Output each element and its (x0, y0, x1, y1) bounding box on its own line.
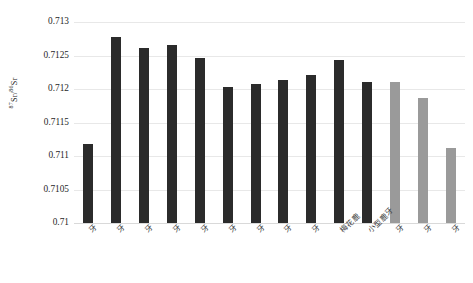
bar (139, 48, 149, 223)
bar (167, 45, 177, 223)
bar (418, 98, 428, 223)
bar (446, 148, 456, 223)
bars-layer (74, 22, 465, 223)
y-tick-label: 0.713 (0, 17, 69, 26)
plot-area (74, 22, 465, 223)
x-tick-label: 牙 (393, 221, 406, 234)
x-tick-label: 牙 (421, 221, 434, 234)
bar (111, 37, 121, 223)
y-tick-label: 0.71 (0, 218, 69, 227)
x-tick-label: 牙 (170, 221, 183, 234)
bar (83, 144, 93, 223)
y-tick-label: 0.7125 (0, 51, 69, 60)
y-tick-label: 0.7105 (0, 185, 69, 194)
x-tick-label: 牙 (86, 221, 99, 234)
y-tick-label: 0.712 (0, 84, 69, 93)
x-tick-label: 牙 (198, 221, 211, 234)
bar (306, 75, 316, 223)
y-axis-tick-labels: 0.7130.71250.7120.71150.7110.71050.71 (0, 0, 69, 283)
sr-isotope-bar-chart: 87Sr/86Sr 0.7130.71250.7120.71150.7110.7… (0, 0, 473, 283)
x-tick-label: 牙 (449, 221, 462, 234)
y-tick-label: 0.7115 (0, 118, 69, 127)
bar (251, 84, 261, 223)
x-tick-label: 牙 (281, 221, 294, 234)
x-tick-label: 牙 (226, 221, 239, 234)
y-tick-label: 0.711 (0, 151, 69, 160)
bar (362, 82, 372, 223)
bar (223, 87, 233, 223)
bar (195, 58, 205, 223)
x-tick-label: 牙 (142, 221, 155, 234)
x-tick-label: 牙 (309, 221, 322, 234)
x-tick-label: 牙 (254, 221, 267, 234)
bar (278, 80, 288, 223)
x-axis-tick-labels: 牙牙牙牙牙牙牙牙牙梅花鹿小型鹿牙牙牙牙 (74, 223, 465, 283)
x-tick-label: 牙 (114, 221, 127, 234)
bar (390, 82, 400, 223)
bar (334, 60, 344, 223)
